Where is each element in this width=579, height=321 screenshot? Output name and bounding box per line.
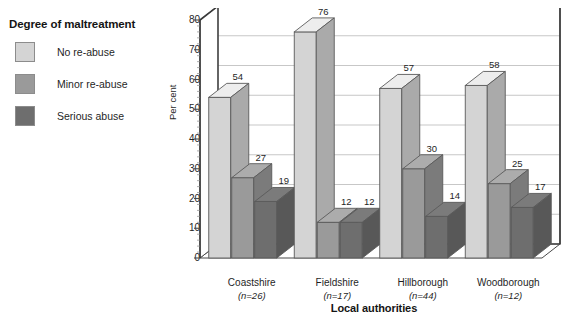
x-axis-title: Local authorities bbox=[176, 302, 572, 314]
legend-label-minor-re-abuse: Minor re-abuse bbox=[57, 78, 128, 90]
bar bbox=[255, 187, 295, 258]
bar bbox=[511, 193, 551, 258]
x-category-label: Fieldshire(n=17) bbox=[292, 276, 382, 302]
x-category-label: Woodborough(n=12) bbox=[463, 276, 553, 302]
x-category-name: Hillborough bbox=[397, 277, 448, 288]
bar-value-label: 58 bbox=[480, 60, 508, 70]
bar-value-label: 30 bbox=[418, 144, 446, 154]
legend-item-minor-re-abuse: Minor re-abuse bbox=[8, 74, 183, 94]
legend-label-serious-abuse: Serious abuse bbox=[57, 110, 124, 122]
x-category-count: (n=26) bbox=[207, 289, 297, 302]
bar-value-label: 17 bbox=[526, 182, 554, 192]
chart-canvas bbox=[176, 8, 572, 276]
x-category-label: Coastshire(n=26) bbox=[207, 276, 297, 302]
legend-title: Degree of maltreatment bbox=[9, 18, 183, 30]
legend-item-serious-abuse: Serious abuse bbox=[8, 106, 183, 126]
legend-swatch-no-re-abuse bbox=[15, 42, 35, 62]
bar-value-label: 27 bbox=[247, 153, 275, 163]
x-category-count: (n=12) bbox=[463, 289, 553, 302]
x-category-name: Coastshire bbox=[228, 277, 276, 288]
legend-item-no-re-abuse: No re-abuse bbox=[8, 42, 183, 62]
legend-swatch-minor-re-abuse bbox=[15, 74, 35, 94]
legend-swatch-serious-abuse bbox=[15, 106, 35, 126]
bar-value-label: 14 bbox=[441, 191, 469, 201]
x-category-label: Hillborough(n=44) bbox=[378, 276, 468, 302]
bar-value-label: 57 bbox=[395, 63, 423, 73]
chart-figure: Degree of maltreatment No re-abuse Minor… bbox=[0, 0, 579, 321]
bar-value-label: 12 bbox=[355, 197, 383, 207]
plot-area: Per cent 01020304050607080 5427197612125… bbox=[176, 8, 572, 276]
x-category-name: Woodborough bbox=[477, 277, 540, 288]
bar-value-label: 19 bbox=[270, 176, 298, 186]
bar-value-label: 25 bbox=[503, 159, 531, 169]
x-category-count: (n=44) bbox=[378, 289, 468, 302]
x-category-count: (n=17) bbox=[292, 289, 382, 302]
legend: Degree of maltreatment No re-abuse Minor… bbox=[8, 18, 183, 138]
legend-label-no-re-abuse: No re-abuse bbox=[57, 46, 115, 58]
bar-value-label: 54 bbox=[224, 72, 252, 82]
x-category-name: Fieldshire bbox=[316, 277, 359, 288]
bar-value-label: 76 bbox=[309, 7, 337, 17]
